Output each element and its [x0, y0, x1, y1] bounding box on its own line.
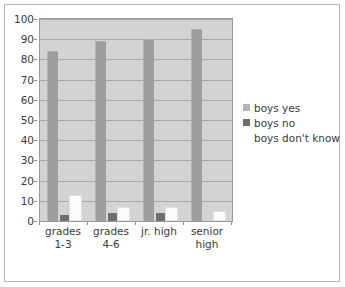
- gridline: [40, 19, 232, 20]
- x-axis-category-label: grades4-6: [87, 225, 135, 250]
- chart-figure: 0102030405060708090100 grades1-3grades4-…: [0, 0, 345, 287]
- chart-legend: boys yesboys noboys don't know: [243, 101, 338, 146]
- legend-item-label: boys no: [254, 116, 295, 130]
- bar-boys-dont-know: [213, 211, 226, 221]
- plot-inner: [40, 19, 232, 221]
- bar-boys-no: [60, 215, 69, 221]
- x-axis-category-label: jr. high: [135, 225, 183, 238]
- y-axis-tick-label: 0: [27, 216, 34, 227]
- x-axis-tick-mark: [87, 222, 88, 225]
- x-axis-category-label: seniorhigh: [183, 225, 231, 250]
- bar-boys-dont-know: [117, 207, 130, 221]
- bar-boys-yes: [47, 51, 58, 221]
- x-axis: grades1-3grades4-6jr. highseniorhigh: [39, 225, 233, 259]
- light-gray-swatch: [243, 104, 250, 111]
- x-axis-category-line: senior: [183, 225, 231, 238]
- legend-item-label: boys yes: [254, 101, 300, 115]
- gridline: [40, 80, 232, 81]
- gridline: [40, 181, 232, 182]
- legend-item[interactable]: boys yes: [243, 101, 338, 115]
- legend-item-label: boys don't know: [254, 131, 340, 145]
- legend-item[interactable]: boys no: [243, 116, 338, 130]
- x-axis-tick-mark: [39, 222, 40, 225]
- bar-boys-dont-know: [69, 195, 82, 221]
- y-axis-tick-mark: [34, 19, 37, 20]
- plot-area: [39, 18, 233, 222]
- x-axis-category-line: high: [183, 238, 231, 251]
- y-axis-tick-label: 60: [21, 95, 34, 106]
- y-axis-tick-label: 80: [21, 54, 34, 65]
- y-axis-tick-mark: [34, 221, 37, 222]
- bar-boys-no: [108, 213, 117, 221]
- x-axis-category-line: jr. high: [135, 225, 183, 238]
- bar-boys-dont-know: [165, 207, 178, 221]
- x-axis-tick-mark: [183, 222, 184, 225]
- bar-boys-no: [156, 213, 165, 221]
- legend-item[interactable]: boys don't know: [243, 131, 338, 145]
- x-axis-tick-mark: [135, 222, 136, 225]
- bar-boys-yes: [191, 29, 202, 221]
- y-axis-tick-mark: [34, 100, 37, 101]
- gridline: [40, 59, 232, 60]
- bar-boys-yes: [143, 39, 154, 221]
- y-axis-tick-mark: [34, 140, 37, 141]
- y-axis-tick-label: 40: [21, 135, 34, 146]
- x-axis-category-line: grades: [39, 225, 87, 238]
- y-axis-tick-label: 50: [21, 115, 34, 126]
- x-axis-category-line: grades: [87, 225, 135, 238]
- x-axis-tick-mark: [231, 222, 232, 225]
- gridline: [40, 39, 232, 40]
- y-axis-tick-label: 90: [21, 34, 34, 45]
- gridline: [40, 100, 232, 101]
- x-axis-category-line: 4-6: [87, 238, 135, 251]
- gridline: [40, 140, 232, 141]
- x-axis-category-label: grades1-3: [39, 225, 87, 250]
- gridline: [40, 120, 232, 121]
- dark-gray-swatch: [243, 119, 250, 126]
- y-axis-tick-label: 30: [21, 155, 34, 166]
- x-axis-category-line: 1-3: [39, 238, 87, 251]
- y-axis-tick-mark: [34, 160, 37, 161]
- y-axis-tick-mark: [34, 201, 37, 202]
- bar-boys-yes: [95, 41, 106, 221]
- y-axis-tick-mark: [34, 39, 37, 40]
- y-axis-tick-label: 10: [21, 196, 34, 207]
- gridline: [40, 160, 232, 161]
- y-axis-tick-mark: [34, 59, 37, 60]
- y-axis-tick-label: 70: [21, 74, 34, 85]
- y-axis-tick-label: 20: [21, 175, 34, 186]
- y-axis: 0102030405060708090100: [4, 18, 37, 222]
- y-axis-tick-mark: [34, 120, 37, 121]
- y-axis-tick-mark: [34, 181, 37, 182]
- y-axis-tick-label: 100: [14, 14, 34, 25]
- y-axis-tick-mark: [34, 80, 37, 81]
